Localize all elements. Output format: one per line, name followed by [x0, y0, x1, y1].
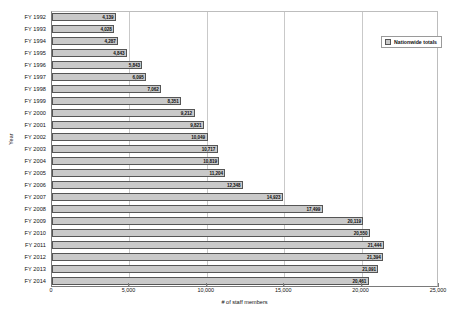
bar-container: 10,819 — [52, 155, 219, 167]
bar-row[interactable]: FY 19987,062 — [0, 83, 450, 95]
bar-container: 14,923 — [52, 191, 283, 203]
bar-value-label: 4,843 — [113, 51, 124, 56]
bar-row[interactable]: FY 201420,461 — [0, 275, 450, 287]
bar-container: 21,091 — [52, 263, 378, 275]
y-axis-tick-label: FY 2007 — [0, 191, 46, 203]
y-axis-tick-label: FY 1995 — [0, 47, 46, 59]
bar[interactable]: 10,717 — [52, 145, 218, 154]
bar-row[interactable]: FY 200511,204 — [0, 167, 450, 179]
bar[interactable]: 12,348 — [52, 181, 243, 190]
y-axis-tick-label: FY 1998 — [0, 83, 46, 95]
bar-row[interactable]: FY 19934,028 — [0, 23, 450, 35]
bar[interactable]: 20,119 — [52, 217, 363, 226]
bar-value-label: 21,394 — [367, 255, 381, 260]
bar-value-label: 4,287 — [105, 39, 116, 44]
legend-swatch-nationwide-totals — [385, 39, 391, 45]
bar-row[interactable]: FY 200714,923 — [0, 191, 450, 203]
bar[interactable]: 4,028 — [52, 25, 114, 34]
bar-value-label: 8,351 — [168, 99, 179, 104]
bar-value-label: 10,717 — [202, 147, 216, 152]
legend-label-nationwide-totals: Nationwide totals — [394, 39, 437, 45]
bar[interactable]: 21,444 — [52, 241, 384, 250]
bar[interactable]: 5,843 — [52, 61, 142, 70]
bar-row[interactable]: FY 201020,550 — [0, 227, 450, 239]
bar-value-label: 5,843 — [129, 63, 140, 68]
legend: Nationwide totals — [381, 36, 442, 48]
bar-row[interactable]: FY 201221,394 — [0, 251, 450, 263]
bar-row[interactable]: FY 19998,351 — [0, 95, 450, 107]
bar-container: 4,139 — [52, 11, 116, 23]
y-axis-tick-label: FY 2014 — [0, 275, 46, 287]
bar-row[interactable]: FY 200817,499 — [0, 203, 450, 215]
bar-container: 12,348 — [52, 179, 243, 191]
bar-row[interactable]: FY 19924,139 — [0, 11, 450, 23]
bar[interactable]: 20,550 — [52, 229, 370, 238]
y-axis-tick-label: FY 2010 — [0, 227, 46, 239]
bar[interactable]: 10,049 — [52, 133, 208, 142]
y-axis-tick-label: FY 1994 — [0, 35, 46, 47]
y-axis-tick-label: FY 2005 — [0, 167, 46, 179]
bar[interactable]: 4,843 — [52, 49, 127, 58]
bar-container: 9,821 — [52, 119, 204, 131]
bar-chart: Year FY 19924,139FY 19934,028FY 19944,28… — [0, 0, 450, 318]
bar[interactable]: 10,819 — [52, 157, 219, 166]
bar-row[interactable]: FY 200410,819 — [0, 155, 450, 167]
bar-container: 17,499 — [52, 203, 323, 215]
bar-container: 7,062 — [52, 83, 161, 95]
bar-value-label: 20,119 — [347, 219, 361, 224]
bar-container: 10,717 — [52, 143, 218, 155]
x-axis-title: # of staff members — [51, 299, 438, 305]
bar-row[interactable]: FY 201121,444 — [0, 239, 450, 251]
bar-row[interactable]: FY 200612,348 — [0, 179, 450, 191]
y-axis-tick-label: FY 2009 — [0, 215, 46, 227]
bar[interactable]: 14,923 — [52, 193, 283, 202]
x-axis-tick-label: 25,000 — [430, 287, 447, 293]
bar[interactable]: 17,499 — [52, 205, 323, 214]
bar-rows: FY 19924,139FY 19934,028FY 19944,287FY 1… — [0, 11, 450, 287]
bar[interactable]: 11,204 — [52, 169, 225, 178]
bar-container: 21,394 — [52, 251, 383, 263]
bar-row[interactable]: FY 19954,843 — [0, 47, 450, 59]
bar[interactable]: 21,394 — [52, 253, 383, 262]
y-axis-tick-label: FY 2002 — [0, 131, 46, 143]
x-axis-tick-mark — [206, 283, 207, 287]
bar-row[interactable]: FY 201321,091 — [0, 263, 450, 275]
bar[interactable]: 4,287 — [52, 37, 118, 46]
bar-value-label: 4,028 — [101, 27, 112, 32]
bar-value-label: 6,095 — [133, 75, 144, 80]
bar-value-label: 7,062 — [148, 87, 159, 92]
bar-row[interactable]: FY 200210,049 — [0, 131, 450, 143]
bar-row[interactable]: FY 20019,821 — [0, 119, 450, 131]
bar[interactable]: 9,212 — [52, 109, 195, 118]
bar[interactable]: 4,139 — [52, 13, 116, 22]
bar-container: 4,843 — [52, 47, 127, 59]
bar-container: 21,444 — [52, 239, 384, 251]
y-axis-tick-label: FY 2008 — [0, 203, 46, 215]
y-axis-tick-label: FY 1999 — [0, 95, 46, 107]
bar-row[interactable]: FY 19965,843 — [0, 59, 450, 71]
bar-value-label: 10,049 — [191, 135, 205, 140]
bar-container: 11,204 — [52, 167, 225, 179]
bar[interactable]: 7,062 — [52, 85, 161, 94]
bar[interactable]: 21,091 — [52, 265, 378, 274]
bar-value-label: 20,550 — [354, 231, 368, 236]
bar-row[interactable]: FY 200310,717 — [0, 143, 450, 155]
x-axis-tick-label: 5,000 — [122, 287, 136, 293]
y-axis-tick-label: FY 2001 — [0, 119, 46, 131]
bar-row[interactable]: FY 20009,212 — [0, 107, 450, 119]
bar[interactable]: 8,351 — [52, 97, 181, 106]
y-axis-tick-label: FY 1997 — [0, 71, 46, 83]
bar-row[interactable]: FY 200920,119 — [0, 215, 450, 227]
x-axis-tick-mark — [128, 283, 129, 287]
bar[interactable]: 20,461 — [52, 277, 369, 286]
bar[interactable]: 6,095 — [52, 73, 146, 82]
y-axis-tick-label: FY 2012 — [0, 251, 46, 263]
bar-container: 20,119 — [52, 215, 363, 227]
x-axis-tick-mark — [361, 283, 362, 287]
bar-row[interactable]: FY 19976,095 — [0, 71, 450, 83]
bar-container: 20,550 — [52, 227, 370, 239]
bar[interactable]: 9,821 — [52, 121, 204, 130]
bar-container: 6,095 — [52, 71, 146, 83]
y-axis-tick-label: FY 1992 — [0, 11, 46, 23]
x-axis-tick-label: 0 — [50, 287, 53, 293]
